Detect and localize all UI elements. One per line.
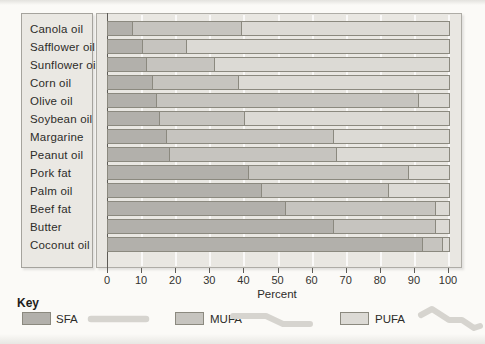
bar-segment-mufa (166, 130, 333, 143)
bar-segment-mufa (261, 184, 387, 197)
bar-segment-sfa (108, 130, 166, 143)
bar-segment-pufa (442, 238, 449, 251)
bar-segment-mufa (422, 238, 442, 251)
bar-segment-pufa (333, 130, 449, 143)
category-label: Corn oil (30, 76, 71, 90)
pufa-double-bend-chain-icon (416, 304, 485, 334)
page-bottom-shading (0, 334, 485, 344)
bar-beef-fat (107, 201, 450, 216)
bar-segment-mufa (146, 58, 214, 71)
category-label: Peanut oil (30, 148, 83, 162)
bar-segment-pufa (408, 166, 449, 179)
bar-peanut-oil (107, 147, 450, 162)
x-tick (312, 268, 313, 273)
category-label: Margarine (30, 130, 84, 144)
bar-segment-mufa (156, 94, 419, 107)
bar-segment-sfa (108, 166, 248, 179)
x-tick-label: 30 (194, 274, 224, 286)
key-title: Key (17, 296, 39, 310)
bar-pork-fat (107, 165, 450, 180)
bar-olive-oil (107, 93, 450, 108)
mufa-single-bend-chain-icon (228, 310, 316, 330)
x-tick (380, 268, 381, 273)
bar-corn-oil (107, 75, 450, 90)
bar-segment-pufa (336, 148, 449, 161)
bar-segment-sfa (108, 220, 333, 233)
category-label: Safflower oil (30, 40, 95, 54)
category-label: Beef fat (30, 202, 71, 216)
bar-sunflower-oil (107, 57, 450, 72)
x-tick-label: 40 (228, 274, 258, 286)
x-tick (346, 268, 347, 273)
x-tick-label: 70 (331, 274, 361, 286)
x-tick (175, 268, 176, 273)
key-label-pufa: PUFA (375, 312, 405, 326)
x-tick (141, 268, 142, 273)
bar-segment-sfa (108, 76, 152, 89)
x-tick-label: 80 (365, 274, 395, 286)
bar-segment-mufa (333, 220, 435, 233)
category-label: Olive oil (30, 94, 73, 108)
bar-segment-pufa (435, 220, 449, 233)
bar-butter (107, 219, 450, 234)
key-swatch-mufa (175, 312, 204, 325)
bar-segment-sfa (108, 184, 261, 197)
bar-margarine (107, 129, 450, 144)
x-tick-label: 90 (399, 274, 429, 286)
bar-soybean-oil (107, 111, 450, 126)
x-axis-title: Percent (197, 288, 357, 300)
x-tick (209, 268, 210, 273)
x-tick (243, 268, 244, 273)
bar-segment-mufa (152, 76, 237, 89)
bar-segment-sfa (108, 148, 169, 161)
category-label: Palm oil (30, 184, 73, 198)
category-label: Butter (30, 220, 62, 234)
x-tick-label: 0 (92, 274, 122, 286)
key-label-sfa: SFA (56, 312, 78, 326)
bar-segment-mufa (142, 40, 186, 53)
category-labels-panel: Canola oilSafflower oilSunflower oilCorn… (21, 13, 93, 268)
bar-segment-pufa (214, 58, 449, 71)
x-tick (278, 268, 279, 273)
key-swatch-pufa (340, 312, 369, 325)
x-tick-label: 10 (126, 274, 156, 286)
bar-segment-mufa (285, 202, 435, 215)
category-label: Soybean oil (30, 112, 92, 126)
bar-segment-pufa (238, 76, 449, 89)
bar-segment-pufa (435, 202, 449, 215)
bar-segment-pufa (418, 94, 449, 107)
bar-segment-mufa (132, 22, 241, 35)
bar-segment-sfa (108, 58, 146, 71)
bar-segment-sfa (108, 238, 422, 251)
key-swatch-sfa (22, 312, 51, 325)
category-label: Pork fat (30, 166, 71, 180)
bar-segment-pufa (186, 40, 449, 53)
bar-segment-sfa (108, 112, 159, 125)
bar-canola-oil (107, 21, 450, 36)
bar-safflower-oil (107, 39, 450, 54)
bar-segment-pufa (244, 112, 449, 125)
bar-segment-mufa (159, 112, 244, 125)
page-top-shading (0, 0, 485, 5)
bar-segment-mufa (169, 148, 336, 161)
bar-coconut-oil (107, 237, 450, 252)
bar-segment-sfa (108, 94, 156, 107)
bar-segment-pufa (241, 22, 449, 35)
fatty-acid-composition-figure: Canola oilSafflower oilSunflower oilCorn… (0, 0, 485, 344)
bar-segment-sfa (108, 22, 132, 35)
x-tick-label: 20 (160, 274, 190, 286)
bar-segment-sfa (108, 202, 285, 215)
category-label: Coconut oil (30, 238, 90, 252)
sfa-straight-chain-icon (86, 313, 152, 325)
bar-segment-sfa (108, 40, 142, 53)
x-tick (448, 268, 449, 273)
x-tick-label: 100 (433, 274, 463, 286)
bar-segment-mufa (248, 166, 408, 179)
category-label: Sunflower oil (30, 58, 98, 72)
x-tick-label: 60 (297, 274, 327, 286)
bar-segment-pufa (388, 184, 449, 197)
x-tick (107, 268, 108, 273)
x-tick (414, 268, 415, 273)
x-tick-label: 50 (263, 274, 293, 286)
bar-palm-oil (107, 183, 450, 198)
